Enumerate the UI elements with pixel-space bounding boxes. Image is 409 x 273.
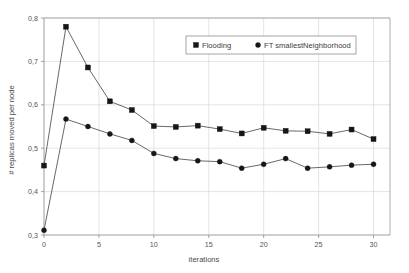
data-point-marker xyxy=(261,125,266,130)
data-point-marker xyxy=(85,124,90,129)
data-point-marker xyxy=(261,162,266,167)
data-point-marker xyxy=(327,164,332,169)
data-point-marker xyxy=(42,163,47,168)
data-point-marker xyxy=(349,163,354,168)
y-tick-label: 0,6 xyxy=(28,100,38,109)
data-point-marker xyxy=(151,151,156,156)
line-chart: 0,30,40,50,60,70,8 051015202530 Flooding… xyxy=(0,0,409,273)
data-point-marker xyxy=(129,138,134,143)
x-tick-label: 0 xyxy=(42,240,46,249)
y-axis-label: # replicas moved per node xyxy=(7,85,16,175)
data-point-marker xyxy=(349,127,354,132)
x-tick-label: 20 xyxy=(260,240,268,249)
y-tick-label: 0,8 xyxy=(28,14,38,23)
x-tick-label: 30 xyxy=(370,240,378,249)
data-point-marker xyxy=(85,65,90,70)
data-point-marker xyxy=(63,24,68,29)
data-point-marker xyxy=(173,124,178,129)
y-tick-label: 0,3 xyxy=(28,231,38,240)
y-tick-label: 0,7 xyxy=(28,57,38,66)
data-point-marker xyxy=(217,127,222,132)
data-point-marker xyxy=(129,108,134,113)
y-tick-label: 0,5 xyxy=(28,144,38,153)
chart-legend: FloodingFT smallestNeighborhood xyxy=(186,36,356,54)
data-point-marker xyxy=(305,129,310,134)
data-point-marker xyxy=(283,156,288,161)
legend-label-2: FT smallestNeighborhood xyxy=(264,41,351,50)
data-point-marker xyxy=(371,162,376,167)
data-point-marker xyxy=(173,156,178,161)
data-point-marker xyxy=(195,123,200,128)
data-point-marker xyxy=(63,117,68,122)
x-tick-label: 10 xyxy=(150,240,158,249)
data-point-marker xyxy=(195,158,200,163)
data-point-marker xyxy=(371,137,376,142)
data-point-marker xyxy=(217,159,222,164)
data-point-marker xyxy=(107,131,112,136)
x-tick-label: 15 xyxy=(205,240,213,249)
data-point-marker xyxy=(42,228,47,233)
data-point-marker xyxy=(151,124,156,129)
data-point-marker xyxy=(327,131,332,136)
data-point-marker xyxy=(283,128,288,133)
legend-marker-1 xyxy=(194,43,199,48)
data-point-marker xyxy=(107,99,112,104)
data-point-marker xyxy=(239,166,244,171)
legend-marker-2 xyxy=(256,43,261,48)
chart-figure: 0,30,40,50,60,70,8 051015202530 Flooding… xyxy=(0,0,409,273)
data-point-marker xyxy=(305,166,310,171)
x-tick-label: 25 xyxy=(315,240,323,249)
legend-label-1: Flooding xyxy=(202,41,231,50)
x-tick-label: 5 xyxy=(97,240,101,249)
y-tick-label: 0,4 xyxy=(28,187,38,196)
x-axis-label: iterations xyxy=(189,255,220,264)
data-point-marker xyxy=(239,131,244,136)
